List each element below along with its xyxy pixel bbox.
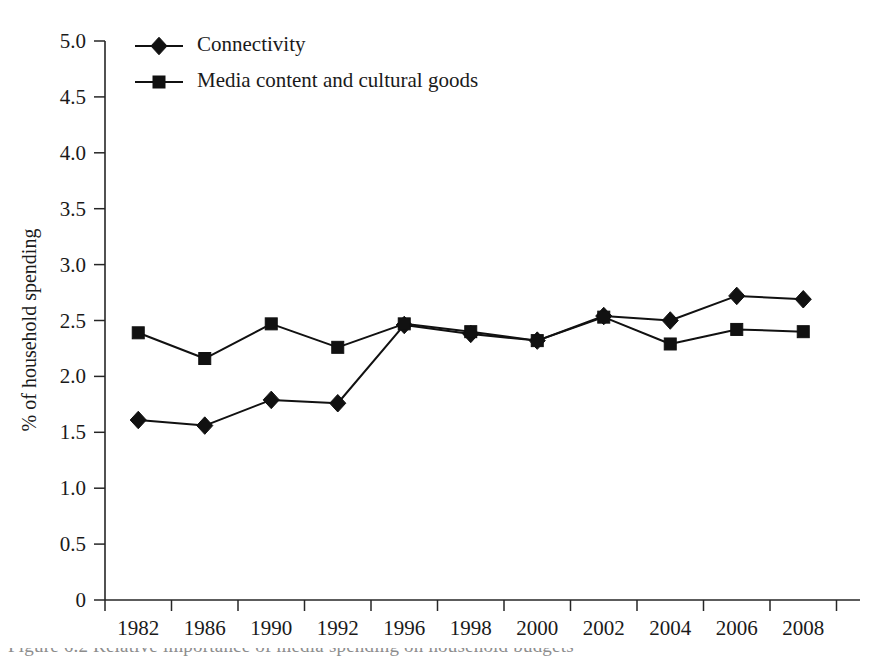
plot-area [130,287,811,434]
x-axis-tick-labels: 1982198619901992199619982000200220042006… [117,616,824,640]
data-point-marker [265,318,277,330]
figure-container: 00.51.01.52.02.53.03.54.04.55.0 % of hou… [0,0,877,662]
x-axis-ticks [105,600,837,611]
x-tick-label: 2000 [516,616,558,640]
y-tick-label: 0.5 [60,532,86,556]
figure-caption: Figure 6.2 Relative importance of media … [8,648,574,657]
x-tick-label: 1986 [184,616,226,640]
data-point-marker [598,311,610,323]
y-tick-label: 4.0 [60,141,86,165]
y-tick-label: 1.5 [60,420,86,444]
x-tick-label: 1992 [317,616,359,640]
y-axis-ticks [94,41,105,600]
legend-label: Connectivity [197,32,306,56]
data-point-marker [664,338,676,350]
data-point-marker [795,291,811,309]
y-axis: 00.51.01.52.02.53.03.54.04.55.0 % of hou… [18,29,105,612]
x-tick-label: 2006 [716,616,758,640]
data-point-marker [332,341,344,353]
legend-item: Connectivity [135,32,306,56]
data-point-marker [465,326,477,338]
y-axis-title: % of household spending [18,229,41,432]
data-point-marker [130,411,146,429]
y-tick-label: 2.0 [60,364,86,388]
x-tick-label: 1990 [250,616,292,640]
data-point-marker [199,353,211,365]
series-line [138,296,803,426]
data-point-marker [729,287,745,305]
x-axis: 1982198619901992199619982000200220042006… [105,600,860,640]
series-2 [132,311,809,364]
y-tick-label: 3.5 [60,197,86,221]
x-tick-label: 2002 [583,616,625,640]
data-point-marker [662,312,678,330]
line-chart: 00.51.01.52.02.53.03.54.04.55.0 % of hou… [0,0,877,648]
x-tick-label: 1998 [450,616,492,640]
y-tick-label: 5.0 [60,29,86,53]
y-tick-label: 0 [76,588,87,612]
data-point-marker [263,391,279,409]
legend-label: Media content and cultural goods [197,68,478,92]
legend-marker-diamond [151,37,167,55]
y-axis-tick-labels: 00.51.01.52.02.53.03.54.04.55.0 [60,29,86,612]
series-1 [130,287,811,434]
legend-marker-square [153,76,165,88]
data-point-marker [197,417,213,435]
x-tick-label: 2008 [782,616,824,640]
y-tick-label: 2.5 [60,309,86,333]
x-tick-label: 1982 [117,616,159,640]
chart-legend: ConnectivityMedia content and cultural g… [135,32,478,92]
y-tick-label: 3.0 [60,253,86,277]
data-point-marker [797,326,809,338]
y-tick-label: 4.5 [60,85,86,109]
data-point-marker [132,327,144,339]
data-point-marker [731,323,743,335]
y-tick-label: 1.0 [60,476,86,500]
x-tick-label: 1996 [383,616,425,640]
x-tick-label: 2004 [649,616,692,640]
data-point-marker [398,318,410,330]
data-point-marker [531,335,543,347]
legend-item: Media content and cultural goods [135,68,478,92]
figure-caption-strip: Figure 6.2 Relative importance of media … [0,648,877,662]
